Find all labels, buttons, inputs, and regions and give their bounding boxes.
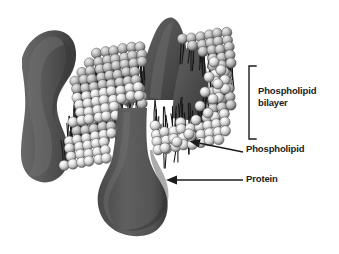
membrane-diagram-canvas — [0, 0, 339, 254]
label-protein: Protein — [246, 173, 278, 185]
label-phospholipid: Phospholipid — [246, 143, 304, 155]
membrane-diagram-figure: Phospholipid bilayer Phospholipid Protei… — [0, 0, 339, 254]
label-phospholipid-bilayer: Phospholipid bilayer — [258, 85, 316, 108]
